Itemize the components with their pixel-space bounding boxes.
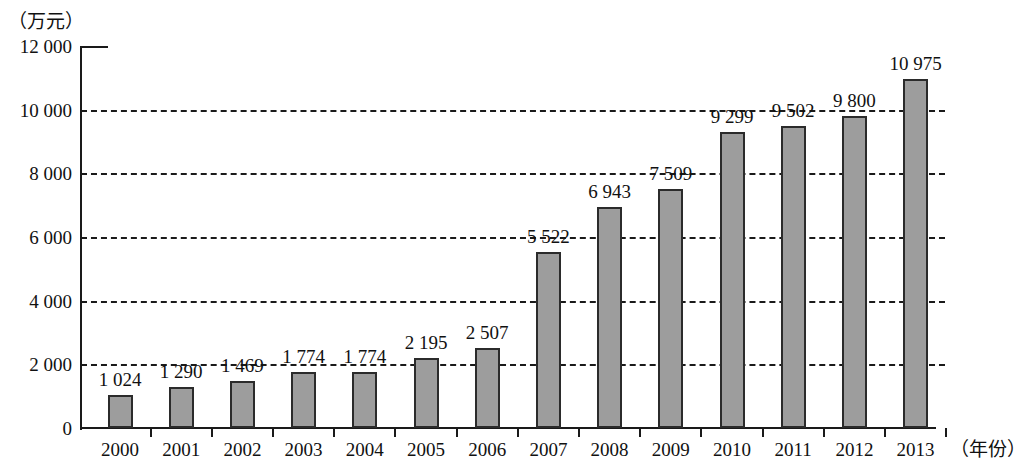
- y-axis-tick-label: 12 000: [2, 37, 72, 56]
- bar-value-label: 2 507: [447, 323, 527, 342]
- bar-value-label: 10 975: [876, 54, 956, 73]
- bar: [291, 372, 316, 428]
- bar: [230, 381, 255, 428]
- bar: [169, 387, 194, 428]
- y-axis-tick-label: 0: [2, 419, 72, 438]
- bar: [597, 207, 622, 428]
- y-axis-tick-label: 6 000: [2, 228, 72, 247]
- x-axis-tick-mark: [517, 428, 519, 437]
- bar: [903, 79, 928, 428]
- bar-value-label: 5 522: [508, 227, 588, 246]
- x-axis-tick-mark: [884, 428, 886, 437]
- x-axis-tick-label: 2013: [876, 440, 956, 460]
- x-axis-tick-mark: [762, 428, 764, 437]
- y-axis-tick-label: 4 000: [2, 292, 72, 311]
- x-axis-tick-mark: [639, 428, 641, 437]
- bar: [720, 132, 745, 428]
- bar: [658, 189, 683, 428]
- bar: [842, 116, 867, 428]
- bar: [108, 395, 133, 428]
- x-axis-tick-mark: [211, 428, 213, 437]
- x-axis-tick-mark: [150, 428, 152, 437]
- x-axis-tick-mark: [456, 428, 458, 437]
- bar: [352, 372, 377, 428]
- bar: [414, 358, 439, 428]
- bar-value-label: 9 800: [814, 91, 894, 110]
- y-axis-tick-label: 2 000: [2, 355, 72, 374]
- x-axis-tick-mark: [272, 428, 274, 437]
- bar: [536, 252, 561, 428]
- bar-value-label: 6 943: [570, 182, 650, 201]
- x-axis-tick-mark: [700, 428, 702, 437]
- x-axis-tick-mark: [394, 428, 396, 437]
- bar: [781, 126, 806, 428]
- x-axis-tick-mark: [578, 428, 580, 437]
- bar-value-label: 7 509: [631, 164, 711, 183]
- y-axis-tick-label: 8 000: [2, 164, 72, 183]
- gridline: [81, 301, 945, 303]
- x-axis-tick-mark: [823, 428, 825, 437]
- bar: [475, 348, 500, 428]
- gridline: [81, 173, 945, 175]
- x-axis-tick-mark: [945, 428, 947, 437]
- y-axis-tick-label: 10 000: [2, 101, 72, 120]
- x-axis-tick-mark: [333, 428, 335, 437]
- x-axis-unit-caption: （年份）: [950, 440, 1018, 460]
- y-axis-unit-caption: （万元）: [8, 6, 84, 33]
